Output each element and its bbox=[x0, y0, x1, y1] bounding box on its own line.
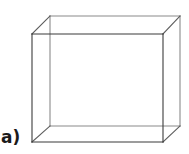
depth-connector-edge-group bbox=[32, 16, 180, 142]
cuboid-wireframe-diagram bbox=[0, 0, 189, 154]
figure-label: a) bbox=[1, 124, 27, 150]
cuboid-edge-connector-top-right bbox=[163, 16, 180, 34]
cuboid-edge-connector-top-left bbox=[32, 16, 50, 34]
cuboid-edge-connector-bottom-right bbox=[163, 126, 180, 142]
back-face-edge-group bbox=[50, 16, 180, 126]
cuboid-edge-connector-bottom-left bbox=[32, 126, 50, 142]
figure-panel: a) bbox=[0, 0, 189, 154]
